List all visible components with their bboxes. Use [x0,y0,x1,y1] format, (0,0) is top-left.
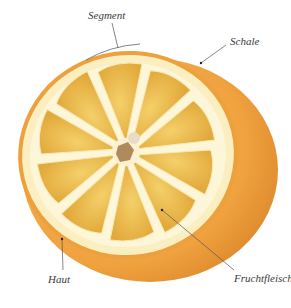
lemon-diagram: Segment Schale Haut Fruchtfleisch [0,0,291,308]
label-segment: Segment [88,9,125,21]
label-haut: Haut [48,273,70,285]
label-schale: Schale [230,35,259,47]
leader-schale [201,45,226,63]
label-fruchtfleisch: Fruchtfleisch [234,272,291,284]
